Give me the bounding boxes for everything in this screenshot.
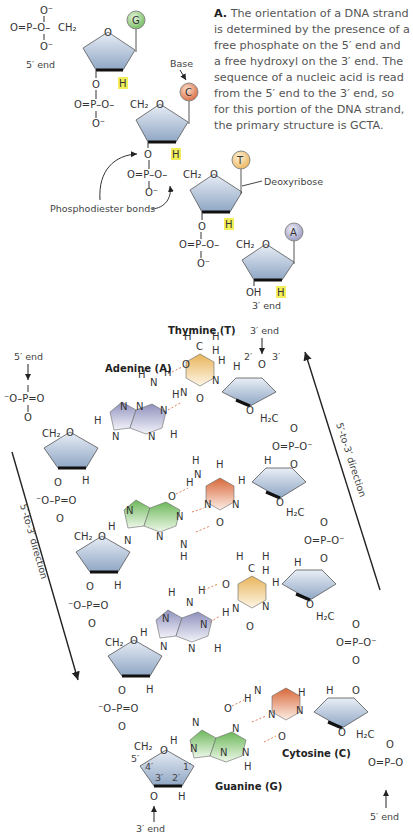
- svg-text:H₂C: H₂C: [316, 611, 335, 622]
- svg-text:H: H: [170, 429, 178, 440]
- base-letter: G: [132, 15, 140, 26]
- svg-text:N: N: [180, 387, 187, 398]
- svg-text:H: H: [170, 735, 178, 746]
- svg-text:O: O: [338, 727, 346, 738]
- atom-ch2: CH₂: [42, 428, 61, 439]
- svg-text:H: H: [192, 455, 200, 466]
- svg-text:O: O: [352, 655, 360, 666]
- thymine-label: Thymine (T): [168, 325, 236, 336]
- svg-text:H₂C: H₂C: [260, 413, 279, 424]
- svg-text:N: N: [150, 377, 157, 388]
- adenine-label: Adenine (A): [105, 363, 172, 374]
- svg-text:N: N: [232, 723, 239, 734]
- svg-text:H: H: [222, 607, 230, 618]
- svg-text:O: O: [224, 703, 232, 714]
- svg-text:H: H: [172, 389, 180, 400]
- svg-text:O: O: [246, 621, 254, 632]
- atom-ch2: CH₂: [183, 169, 202, 180]
- svg-text:O: O: [150, 791, 158, 802]
- atom-o-minus: O⁻: [92, 118, 105, 129]
- svg-text:H: H: [262, 565, 270, 576]
- svg-text:N: N: [148, 431, 155, 442]
- svg-text:N: N: [212, 375, 219, 386]
- svg-text:O=P–O⁻: O=P–O⁻: [304, 535, 344, 546]
- svg-text:H: H: [326, 685, 334, 696]
- svg-text:O: O: [276, 497, 284, 508]
- svg-text:O: O: [56, 513, 64, 524]
- svg-text:N: N: [112, 431, 119, 442]
- svg-text:CH₂: CH₂: [105, 637, 124, 648]
- svg-text:N: N: [136, 401, 143, 412]
- svg-text:O: O: [246, 405, 254, 416]
- svg-text:⁻O–P=O: ⁻O–P=O: [36, 495, 77, 506]
- svg-text:O: O: [320, 553, 328, 564]
- svg-text:CH₂: CH₂: [134, 741, 153, 752]
- left-direction-label: 5′-to-3′ direction: [18, 503, 50, 581]
- svg-text:N: N: [186, 597, 193, 608]
- right-sugar-3: O H H₂C O O=P–O⁻ O: [282, 557, 376, 666]
- svg-text:CH₂: CH₂: [74, 531, 93, 542]
- atom-o-minus: O⁻: [145, 187, 158, 198]
- svg-text:H: H: [264, 455, 272, 466]
- svg-text:O: O: [352, 619, 360, 630]
- svg-text:N: N: [242, 747, 249, 758]
- atom-o-minus: O⁻: [197, 258, 210, 269]
- left-sugar-3: O H O ⁻O–P=O O CH₂: [98, 635, 162, 752]
- svg-text:N: N: [160, 641, 167, 652]
- svg-text:3′: 3′: [272, 351, 280, 362]
- svg-text:O: O: [306, 599, 314, 610]
- base-letter: C: [185, 87, 192, 98]
- svg-text:O: O: [386, 739, 394, 750]
- svg-text:H₂C: H₂C: [286, 507, 305, 518]
- atom-ch2: CH₂: [236, 239, 255, 250]
- dna-structure-figure: A. The orientation of a DNA strand is de…: [0, 0, 413, 836]
- atom-o-minus: O⁻: [40, 5, 53, 16]
- base-pair-a-t-3: NNH NN NHH H ONH ON CH HHH: [140, 551, 280, 654]
- left-sugar-1: O H O ⁻O–P=O O CH₂: [36, 427, 98, 542]
- svg-text:2′: 2′: [244, 351, 252, 362]
- svg-text:N: N: [190, 743, 197, 754]
- base-pair-g-c-2: NNH NO NNH HNH HH NNO: [108, 455, 246, 562]
- svg-text:⁻O–P=O: ⁻O–P=O: [98, 703, 139, 714]
- svg-text:N: N: [220, 747, 227, 758]
- svg-text:N: N: [200, 619, 207, 630]
- svg-text:O: O: [258, 359, 266, 370]
- svg-text:N: N: [232, 499, 239, 510]
- single-strand: O⁻ O=P–O– CH₂ O⁻ 5′ end O G H O O=P–O– C…: [10, 5, 323, 311]
- svg-text:H: H: [216, 459, 224, 470]
- left-five-prime-label: 5′ end: [14, 351, 43, 362]
- svg-text:N: N: [268, 709, 275, 720]
- svg-text:N: N: [176, 511, 183, 522]
- svg-text:O: O: [320, 517, 328, 528]
- svg-text:N: N: [194, 469, 201, 480]
- svg-text:⁻O–P=O: ⁻O–P=O: [68, 600, 109, 611]
- double-helix: 5′-to-3′ direction 5′-to-3′ direction 5′…: [4, 325, 403, 834]
- svg-text:H: H: [244, 693, 252, 704]
- diagram-canvas: O⁻ O=P–O– CH₂ O⁻ 5′ end O G H O O=P–O– C…: [0, 0, 413, 836]
- right-sugar-1: O H O 2′ 3′ H₂C O O=P–O⁻ O: [222, 351, 312, 470]
- right-five-prime-label: 5′ end: [370, 811, 399, 822]
- base-pair-a-t-1: NN NN NH NH HH Adenine (A) ONH ON CHHHH …: [94, 325, 236, 442]
- svg-text:H: H: [114, 580, 122, 591]
- svg-text:O=P–O⁻: O=P–O⁻: [336, 637, 376, 648]
- atom-o: O: [24, 412, 32, 423]
- svg-text:N: N: [124, 535, 131, 546]
- svg-text:N: N: [192, 717, 199, 728]
- atom-h: H: [277, 287, 285, 298]
- svg-text:H: H: [262, 551, 270, 562]
- phosphate-group: O=P–O–: [179, 239, 219, 250]
- atom-o-minus: O⁻: [40, 41, 53, 52]
- right-sugar-2: O H H₂C O O=P–O⁻ O: [252, 455, 344, 564]
- svg-text:O: O: [168, 491, 176, 502]
- svg-text:H: H: [146, 684, 154, 695]
- base-letter: A: [290, 227, 297, 238]
- svg-text:H: H: [233, 361, 241, 372]
- atom-o: O: [262, 239, 270, 250]
- svg-text:H: H: [82, 475, 90, 486]
- svg-text:H: H: [198, 585, 206, 596]
- svg-text:O: O: [118, 721, 126, 732]
- svg-text:O: O: [66, 427, 74, 438]
- svg-text:O: O: [290, 423, 298, 434]
- phosphodiester-label: Phosphodiester bonds: [50, 203, 155, 214]
- svg-text:C: C: [248, 563, 255, 574]
